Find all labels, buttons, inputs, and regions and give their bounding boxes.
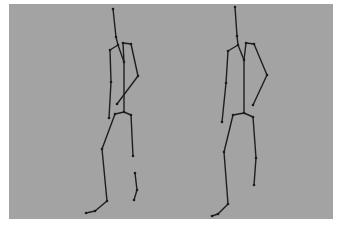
bone-l_ankle-l_foot: [218, 204, 228, 214]
bone-shoulder_center-chest: [238, 45, 244, 60]
joint-l_foot: [217, 213, 220, 216]
joint-r_hip: [130, 114, 133, 117]
bone-shoulder_center-l_shoulder: [228, 45, 238, 51]
joint-r_shoulder_a: [245, 42, 248, 45]
bone-l_shoulder-l_elbow: [110, 50, 111, 82]
skeleton-left: [85, 8, 140, 215]
joint-r_hand: [116, 103, 119, 106]
skeleton-figure: [0, 0, 344, 227]
joint-pelvis: [123, 111, 126, 114]
joint-shoulder_center: [237, 44, 240, 47]
bone-pelvis-l_hip: [233, 113, 244, 115]
joint-l_shoulder: [227, 50, 230, 53]
bone-l_elbow-l_hand: [222, 83, 226, 122]
joint-head: [112, 8, 115, 11]
bone-l_hip-l_knee: [102, 114, 115, 149]
bone-l_hip-l_knee: [224, 115, 233, 152]
bone-neck-shoulder_center: [237, 36, 238, 45]
joint-r_elbow: [137, 75, 140, 78]
bone-r_shoulder_a-chest: [244, 43, 246, 60]
bone-pelvis-r_hip: [244, 113, 253, 117]
bone-r_elbow-r_hand: [117, 76, 138, 104]
bone-l_foot-l_toe: [86, 211, 95, 213]
joint-r_knee: [132, 155, 135, 158]
bone-l_knee-l_ankle: [102, 149, 107, 201]
bone-r_hip-r_knee: [131, 115, 133, 156]
bone-l_ankle-l_foot: [95, 201, 107, 211]
joint-chest: [123, 61, 126, 64]
joint-l_elbow: [110, 81, 113, 84]
joint-r_shoulder_a: [122, 42, 125, 45]
joint-l_toe: [85, 212, 88, 215]
joint-l_foot: [94, 210, 97, 213]
joint-r_elbow: [266, 74, 269, 77]
bone-head-neck: [235, 7, 237, 36]
bone-r_knee-r_ankle: [254, 158, 256, 185]
joint-l_toe: [211, 215, 214, 218]
bone-r_shin_b-r_ankle: [134, 190, 137, 200]
joint-l_elbow: [225, 82, 228, 85]
joint-r_knee: [255, 157, 258, 160]
bone-pelvis-l_hip: [115, 112, 124, 114]
joint-l_knee: [223, 151, 226, 154]
joint-r_hip: [252, 116, 255, 119]
joint-l_shoulder: [109, 49, 112, 52]
skeleton-right: [211, 6, 269, 218]
joint-r_ankle: [253, 184, 256, 187]
bone-r_hip-r_knee: [253, 117, 256, 158]
joint-r_shin_a: [134, 172, 137, 175]
joint-r_ankle: [133, 199, 136, 202]
joint-chest: [243, 59, 246, 62]
joint-l_hip: [232, 114, 235, 117]
bone-r_shoulder-r_elbow: [131, 44, 138, 76]
joint-r_hand: [252, 104, 255, 107]
joint-r_shin_b: [136, 189, 139, 192]
joint-head: [234, 6, 237, 9]
joint-l_hand: [108, 117, 111, 120]
joint-r_shoulder: [130, 43, 133, 46]
joint-l_ankle: [106, 200, 109, 203]
joint-l_knee: [101, 148, 104, 151]
joint-l_hand: [221, 121, 224, 124]
bone-head-neck: [113, 9, 116, 37]
bone-r_shin_a-r_shin_b: [135, 173, 137, 190]
bone-r_shoulder-r_elbow: [254, 44, 267, 75]
bone-l_elbow-l_hand: [109, 82, 111, 118]
bone-r_elbow-r_hand: [253, 75, 267, 105]
bone-shoulder_center-l_shoulder: [110, 45, 118, 50]
bone-l_shoulder-l_elbow: [226, 51, 228, 83]
joint-shoulder_center: [117, 44, 120, 47]
joint-r_shoulder: [253, 43, 256, 46]
joint-l_hip: [114, 113, 117, 116]
joint-l_ankle: [227, 203, 230, 206]
bone-r_shoulder_a-chest: [123, 43, 124, 62]
joint-neck: [115, 36, 118, 39]
joint-neck: [236, 35, 239, 38]
joint-pelvis: [243, 112, 246, 115]
bone-l_knee-l_ankle: [224, 152, 228, 204]
